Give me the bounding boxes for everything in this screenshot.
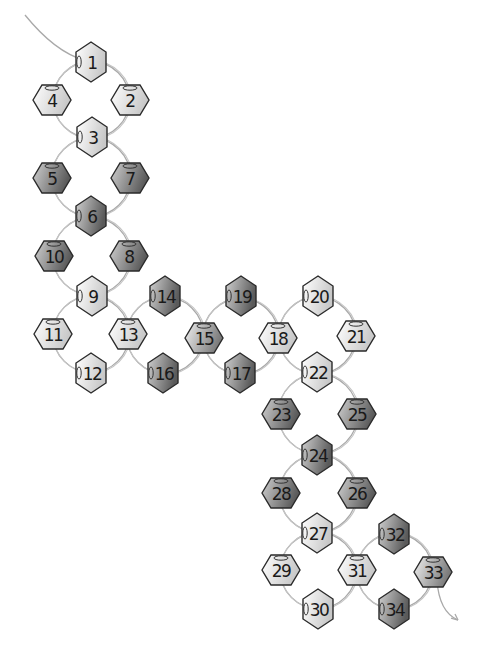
bead-number: 5 <box>47 169 57 189</box>
bead-2: 2 <box>111 85 149 115</box>
bead-number: 26 <box>348 484 367 504</box>
bead-number: 31 <box>348 561 367 581</box>
bead-9: 9 <box>77 276 107 316</box>
bead-23: 23 <box>262 399 300 429</box>
bead-number: 22 <box>309 363 328 383</box>
bead-26: 26 <box>338 478 376 508</box>
bead-28: 28 <box>262 478 300 508</box>
bead-1: 1 <box>76 42 106 82</box>
bead-number: 15 <box>195 329 214 349</box>
thread-start <box>25 15 84 60</box>
bead-number: 33 <box>424 563 443 583</box>
bead-11: 11 <box>34 319 72 349</box>
bead-17: 17 <box>225 353 255 393</box>
bead-8: 8 <box>110 241 148 271</box>
bead-number: 34 <box>386 600 405 620</box>
bead-number: 20 <box>310 287 329 307</box>
bead-20: 20 <box>303 276 333 316</box>
bead-3: 3 <box>77 117 107 157</box>
bead-number: 3 <box>88 128 98 148</box>
bead-22: 22 <box>302 352 332 392</box>
bead-number: 18 <box>269 329 288 349</box>
bead-number: 11 <box>44 325 63 345</box>
bead-number: 19 <box>233 287 252 307</box>
bead-21: 21 <box>337 321 375 351</box>
bead-number: 9 <box>88 287 98 307</box>
bead-number: 14 <box>157 287 176 307</box>
bead-18: 18 <box>259 323 297 353</box>
beads-layer: 1234567891011121314151617181920212223242… <box>33 42 452 629</box>
bead-number: 2 <box>125 91 135 111</box>
bead-number: 28 <box>272 484 291 504</box>
bead-6: 6 <box>76 196 106 236</box>
bead-number: 7 <box>125 169 135 189</box>
bead-29: 29 <box>262 555 300 585</box>
bead-30: 30 <box>303 589 333 629</box>
bead-33: 33 <box>414 557 452 587</box>
bead-number: 27 <box>309 524 328 544</box>
bead-number: 23 <box>272 405 291 425</box>
bead-number: 10 <box>45 247 64 267</box>
bead-16: 16 <box>148 353 178 393</box>
bead-number: 4 <box>47 91 57 111</box>
bead-25: 25 <box>338 399 376 429</box>
bead-number: 13 <box>119 325 138 345</box>
bead-7: 7 <box>111 163 149 193</box>
bead-19: 19 <box>226 276 256 316</box>
bead-number: 16 <box>155 364 174 384</box>
bead-14: 14 <box>150 276 180 316</box>
bead-24: 24 <box>302 435 332 475</box>
bead-number: 25 <box>348 405 367 425</box>
bead-15: 15 <box>185 323 223 353</box>
bead-31: 31 <box>338 555 376 585</box>
bead-number: 12 <box>83 364 102 384</box>
bead-number: 8 <box>124 247 134 267</box>
bead-number: 6 <box>87 207 97 227</box>
bead-number: 32 <box>386 525 405 545</box>
bead-number: 29 <box>272 561 291 581</box>
bead-10: 10 <box>35 241 73 271</box>
bead-number: 30 <box>310 600 329 620</box>
bead-pattern-diagram: 1234567891011121314151617181920212223242… <box>0 0 485 654</box>
bead-number: 17 <box>232 364 251 384</box>
bead-4: 4 <box>33 85 71 115</box>
bead-27: 27 <box>302 513 332 553</box>
bead-34: 34 <box>379 589 409 629</box>
bead-5: 5 <box>33 163 71 193</box>
bead-number: 21 <box>347 327 366 347</box>
bead-number: 1 <box>87 53 97 73</box>
bead-12: 12 <box>76 353 106 393</box>
bead-13: 13 <box>109 319 147 349</box>
bead-32: 32 <box>379 514 409 554</box>
bead-number: 24 <box>309 446 328 466</box>
